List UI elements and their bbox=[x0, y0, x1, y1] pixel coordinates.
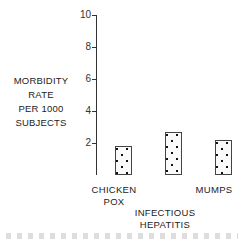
y-axis-label-line: RATE bbox=[0, 88, 82, 102]
cropped-caption-fragment bbox=[6, 233, 238, 239]
bar-chart: MORBIDITY RATE PER 1000 SUBJECTS 246810 … bbox=[0, 0, 245, 240]
y-tick-label: 2 bbox=[78, 138, 91, 148]
category-label-line: HEPATITIS bbox=[130, 219, 200, 231]
y-tick-mark bbox=[92, 47, 97, 48]
bar-solid bbox=[197, 132, 215, 175]
bar-solid bbox=[97, 95, 115, 175]
y-tick-mark bbox=[92, 79, 97, 80]
y-axis-label: MORBIDITY RATE PER 1000 SUBJECTS bbox=[0, 74, 82, 130]
category-label-mumps: MUMPS bbox=[190, 184, 238, 196]
y-tick-label: 6 bbox=[78, 74, 91, 84]
category-label-line: CHICKEN bbox=[86, 184, 142, 196]
category-label-chicken-pox: CHICKEN POX bbox=[86, 184, 142, 208]
category-label-infectious-hepatitis: INFECTIOUS HEPATITIS bbox=[130, 207, 200, 231]
category-label-line: INFECTIOUS bbox=[130, 207, 200, 219]
bar-dotted bbox=[215, 140, 232, 175]
y-axis-label-line: MORBIDITY bbox=[0, 74, 82, 88]
y-axis-label-line: PER 1000 bbox=[0, 102, 82, 116]
bar-solid bbox=[147, 25, 165, 175]
category-label-line: MUMPS bbox=[190, 184, 238, 196]
y-axis-label-line: SUBJECTS bbox=[0, 116, 82, 130]
y-tick-mark bbox=[92, 15, 97, 16]
y-tick-label: 4 bbox=[78, 106, 91, 116]
bar-dotted bbox=[115, 146, 132, 175]
y-tick-label: 8 bbox=[78, 42, 91, 52]
y-tick-label: 10 bbox=[78, 10, 91, 20]
bar-dotted bbox=[165, 132, 182, 175]
